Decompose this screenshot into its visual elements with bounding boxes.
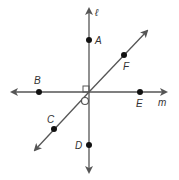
label-f: F bbox=[123, 61, 130, 72]
right-angle-marker bbox=[83, 86, 89, 92]
point-f bbox=[121, 52, 127, 58]
point-a bbox=[86, 37, 92, 43]
point-d bbox=[86, 142, 92, 148]
label-line-l: ℓ bbox=[94, 7, 99, 18]
geometry-diagram: ℓ m A B C D E F bbox=[0, 0, 179, 180]
label-d: D bbox=[75, 140, 82, 151]
label-a: A bbox=[94, 35, 102, 46]
angle-circle-marker bbox=[82, 98, 89, 105]
point-b bbox=[36, 89, 42, 95]
label-b: B bbox=[34, 75, 41, 86]
point-c bbox=[51, 126, 57, 132]
point-e bbox=[137, 89, 143, 95]
label-line-m: m bbox=[158, 97, 166, 108]
label-c: C bbox=[47, 114, 55, 125]
label-e: E bbox=[136, 98, 143, 109]
